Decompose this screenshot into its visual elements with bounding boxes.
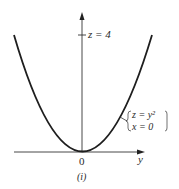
z-tick-label: z = 4 — [88, 28, 111, 40]
left-brace — [126, 111, 131, 131]
y-axis-label: y — [138, 153, 143, 165]
equation-line1: z = y² — [132, 109, 155, 120]
origin-label: 0 — [79, 155, 85, 167]
right-brace — [165, 111, 167, 131]
equation-line2: x = 0 — [132, 121, 153, 132]
parabola-curve — [14, 35, 152, 152]
z-axis-arrow-icon — [80, 12, 85, 20]
figure-caption: (i) — [77, 171, 86, 182]
leader-line — [120, 117, 127, 121]
